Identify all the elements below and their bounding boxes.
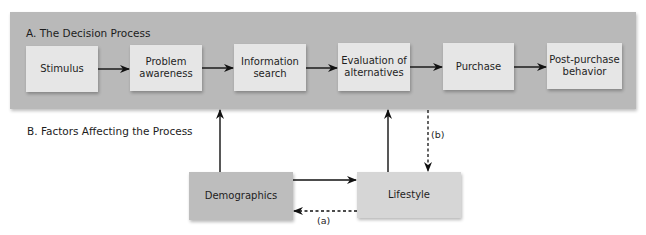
edge-label-b: (b): [431, 129, 444, 140]
arrows-layer: [0, 0, 646, 235]
edge-label-a: (a): [317, 215, 330, 226]
